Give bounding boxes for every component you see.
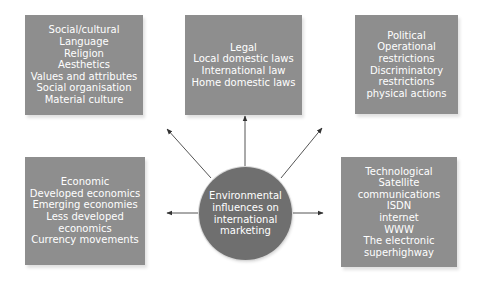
box-item: Home domestic laws <box>192 77 296 89</box>
social-cultural-box: Social/cultural Language Religion Aesthe… <box>25 15 143 115</box>
box-item: Discriminatory <box>370 65 443 77</box>
box-item: restrictions <box>379 76 435 88</box>
box-item: Religion <box>64 48 104 60</box>
box-item: Less developed <box>46 211 123 223</box>
box-item: Currency movements <box>31 234 139 246</box>
center-label-line: marketing <box>220 225 271 237</box>
box-item: Material culture <box>45 94 124 106</box>
box-item: Aesthetics <box>58 59 110 71</box>
box-item: WWW <box>384 224 414 236</box>
box-item: economics <box>58 223 111 235</box>
technological-box: Technological Satellite communications I… <box>341 157 457 267</box>
box-item: internet <box>379 212 419 224</box>
legal-box: Legal Local domestic laws International … <box>185 15 302 115</box>
box-heading: Political <box>387 30 425 42</box>
box-heading: Economic <box>61 176 109 188</box>
box-item: Values and attributes <box>31 71 138 83</box>
box-item: Developed economics <box>30 188 140 200</box>
box-item: The electronic <box>364 235 435 247</box>
arrow-to-political <box>281 128 322 178</box>
box-item: ISDN <box>387 200 411 212</box>
box-item: International law <box>201 65 285 77</box>
box-item: Social organisation <box>37 82 132 94</box>
box-item: restrictions <box>379 53 435 65</box>
box-heading: Legal <box>230 42 257 54</box>
box-item: Operational <box>377 41 436 53</box>
box-item: superhighway <box>364 247 434 259</box>
center-label-line: influences on <box>212 202 279 214</box>
economic-box: Economic Developed economics Emerging ec… <box>25 157 145 265</box>
box-heading: Technological <box>365 166 432 178</box>
arrow-to-social <box>167 129 211 178</box>
box-item: physical actions <box>366 88 446 100</box>
box-heading: Social/cultural <box>49 24 120 36</box>
center-node: Environmental influences on internationa… <box>199 167 292 260</box>
box-item: Satellite <box>379 177 420 189</box>
political-box: Political Operational restrictions Discr… <box>355 15 458 114</box>
center-label-line: Environmental <box>209 190 282 202</box>
center-label-line: international <box>214 214 278 226</box>
box-item: Local domestic laws <box>193 53 293 65</box>
box-item: communications <box>358 189 441 201</box>
box-item: Language <box>59 36 108 48</box>
box-item: Emerging economies <box>32 199 137 211</box>
